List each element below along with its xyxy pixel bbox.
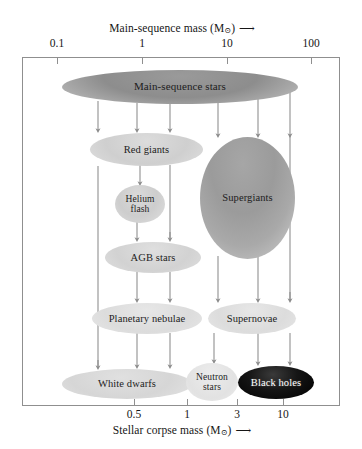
node-black-holes[interactable]: Black holes: [238, 366, 314, 399]
bottom-axis-caption-text: Stellar corpse mass (M: [113, 424, 221, 436]
bottom-axis-caption: Stellar corpse mass (M⊙)⟶: [0, 424, 362, 437]
node-label-supergiants: Supergiants: [220, 192, 275, 203]
bottom-tick-label-3: 3: [234, 408, 240, 420]
node-label-helium-flash-line1: Helium: [123, 194, 156, 204]
arrow-group-hf-agb: [137, 222, 170, 240]
node-label-neutron-stars-line2: stars: [201, 382, 223, 392]
arrow-group-sg-sn: [218, 256, 290, 301]
node-white-dwarfs[interactable]: White dwarfs: [62, 369, 192, 399]
node-label-main-sequence-stars: Main-sequence stars: [132, 81, 228, 93]
node-red-giants[interactable]: Red giants: [90, 133, 203, 166]
node-label-neutron-stars: Neutronstars: [192, 372, 232, 393]
arrow-group-agb-pn: [137, 272, 170, 301]
node-label-white-dwarfs: White dwarfs: [96, 378, 158, 389]
node-supergiants[interactable]: Supergiants: [200, 137, 295, 259]
node-main-sequence-stars[interactable]: Main-sequence stars: [62, 70, 298, 104]
node-label-planetary-nebulae: Planetary nebulae: [107, 313, 188, 324]
node-label-supernovae: Supernovae: [225, 313, 280, 324]
stellar-evolution-diagram: Main-sequence mass (M⊙)⟶ 0.1 1 10 100: [0, 0, 362, 449]
node-label-helium-flash-line2: flash: [129, 204, 152, 214]
node-agb-stars[interactable]: AGB stars: [105, 242, 201, 273]
node-label-agb-stars: AGB stars: [129, 252, 178, 263]
node-helium-flash[interactable]: Heliumflash: [115, 185, 165, 223]
node-label-neutron-stars-line1: Neutron: [194, 372, 230, 382]
node-label-helium-flash: Heliumflash: [121, 194, 158, 215]
node-planetary-nebulae[interactable]: Planetary nebulae: [92, 303, 202, 334]
right-arrow-icon-bottom: ⟶: [235, 424, 249, 437]
node-supernovae[interactable]: Supernovae: [208, 303, 296, 334]
bottom-tick-label-1: 1: [184, 408, 190, 420]
node-label-black-holes: Black holes: [249, 377, 303, 388]
solar-mass-symbol-bottom: ⊙: [221, 428, 228, 437]
bottom-tick-label-0-5: 0.5: [127, 408, 141, 420]
node-neutron-stars[interactable]: Neutronstars: [186, 363, 238, 401]
bottom-tick-label-10: 10: [277, 408, 289, 420]
bottom-axis-caption-close: ): [228, 424, 232, 436]
arrow-group-pn-wd: [137, 333, 170, 367]
node-label-red-giants: Red giants: [122, 144, 172, 155]
arrow-group-sn-remnants: [214, 333, 290, 364]
